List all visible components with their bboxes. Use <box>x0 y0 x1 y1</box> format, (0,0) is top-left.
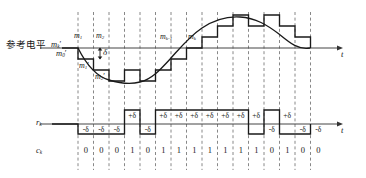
top-axis-t-label: t <box>341 50 343 59</box>
rk-step-label: +δ <box>202 111 217 120</box>
rk-step-label: -δ <box>264 125 279 134</box>
ck-bit: 1 <box>204 145 216 155</box>
rk-step-label: +δ <box>233 111 248 120</box>
ck-bit: 0 <box>266 145 278 155</box>
rk-step-label: -δ <box>295 125 310 134</box>
rk-step-label: -δ <box>78 125 93 134</box>
ck-row-label: ck <box>36 146 42 155</box>
analog-signal-curve <box>78 17 310 83</box>
ck-bit: 1 <box>126 145 138 155</box>
rk-step-label: +δ <box>125 111 140 120</box>
delta-modulation-figure: 参考电平 mk′ m0′ m1 m2 mk-1 mk m1′ m2′ δ t t… <box>0 0 366 178</box>
reference-level-label: 参考电平 <box>6 40 46 50</box>
m-0-prime-label: m0′ <box>56 49 67 58</box>
rk-step-label: +δ <box>171 111 186 120</box>
ck-bit: 0 <box>95 145 107 155</box>
m-1-label: m1 <box>74 32 82 41</box>
rk-step-label: +δ <box>280 111 295 120</box>
rk-step-label: -δ <box>94 125 109 134</box>
rk-step-label: +δ <box>156 111 171 120</box>
ck-bit: 0 <box>80 145 92 155</box>
rk-step-label: +δ <box>249 111 264 120</box>
rk-row-label: rk <box>36 118 42 127</box>
ck-bit: 0 <box>297 145 309 155</box>
delta-step-marker <box>98 48 103 60</box>
ck-bit: 1 <box>281 145 293 155</box>
ck-bit: 1 <box>219 145 231 155</box>
rk-step-label: -δ <box>140 125 155 134</box>
ck-bit: 1 <box>235 145 247 155</box>
ck-bit: 1 <box>173 145 185 155</box>
m-k-minus-1-label: mk-1 <box>160 33 172 42</box>
rk-step-label: -δ <box>311 125 326 134</box>
rk-step-label: -δ <box>109 125 124 134</box>
m-2-prime-label: m2′ <box>95 73 105 82</box>
rk-step-label: +δ <box>187 111 202 120</box>
delta-step-label: δ <box>103 48 107 57</box>
ck-bit: 0 <box>142 145 154 155</box>
ck-bit: 0 <box>111 145 123 155</box>
rk-step-label: +δ <box>218 111 233 120</box>
m-2-label: m2 <box>96 32 104 41</box>
m-1-prime-label: m1′ <box>79 62 89 71</box>
m-k-label: mk <box>188 33 196 42</box>
ck-bit: 0 <box>312 145 324 155</box>
ck-bit: 1 <box>188 145 200 155</box>
rk-axis-t-label: t <box>341 126 343 135</box>
ck-bit: 1 <box>250 145 262 155</box>
ck-bit: 1 <box>157 145 169 155</box>
